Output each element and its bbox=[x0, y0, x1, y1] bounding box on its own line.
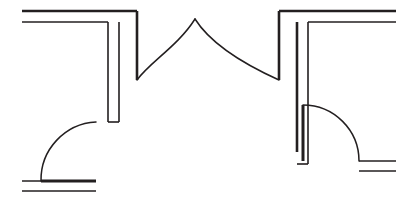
floor-plan-drawing bbox=[0, 0, 416, 206]
drawing-background bbox=[0, 0, 416, 206]
floor-plan-canvas bbox=[0, 0, 416, 206]
